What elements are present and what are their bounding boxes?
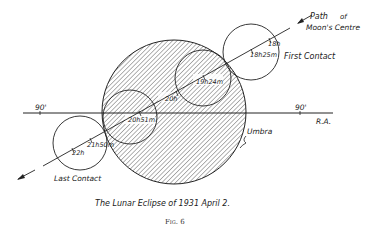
ra-right-tick-label: 90' — [295, 103, 307, 112]
time-18h: 18h — [268, 40, 280, 48]
path-label-line2: of — [340, 13, 348, 21]
umbra-label: Umbra — [247, 127, 273, 136]
time-19h24m: 19h24m — [196, 78, 223, 86]
time-20h51m: 20h51m — [128, 116, 155, 124]
time-22h: 22h — [72, 149, 84, 157]
arrow-down-left-icon — [17, 174, 25, 180]
figure-caption: The Lunar Eclipse of 1931 April 2. — [95, 199, 230, 208]
first-contact-label: First Contact — [284, 52, 336, 61]
time-18h25m: 18h25m — [250, 51, 277, 59]
ra-left-tick-label: 90' — [35, 103, 47, 112]
path-label-line1: Path — [310, 12, 328, 21]
time-21h50m: 21h50m — [87, 141, 114, 149]
ra-label: R.A. — [316, 117, 331, 126]
eclipse-diagram: Path of Moon's Centre First Contact Last… — [0, 0, 371, 232]
path-label-line3: Moon's Centre — [306, 23, 360, 32]
figure-label: Fig. 6 — [165, 218, 185, 226]
last-contact-label: Last Contact — [54, 174, 102, 183]
time-20h: 20h — [165, 95, 177, 103]
arrow-down-left-icon — [297, 18, 304, 24]
